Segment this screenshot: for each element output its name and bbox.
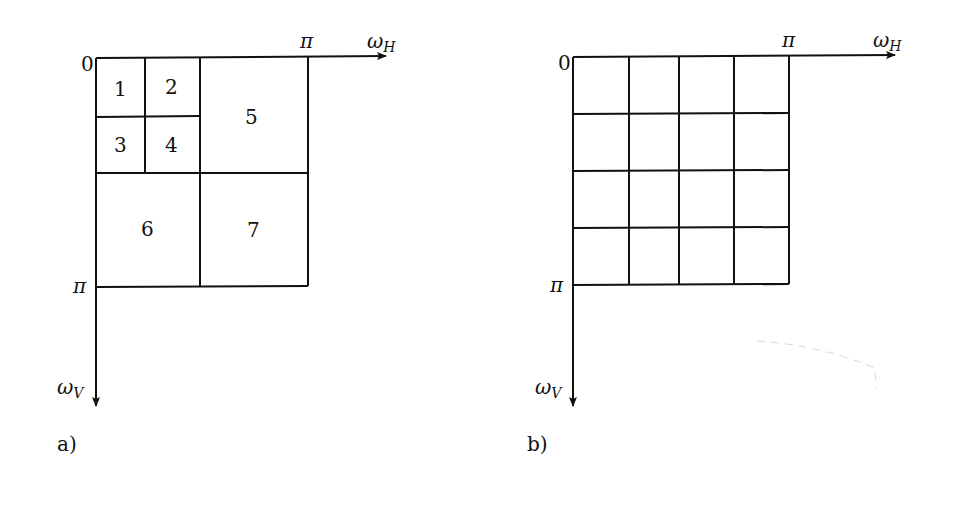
region-1: 1 (114, 77, 127, 101)
h-tick-pi-a: π (299, 29, 314, 53)
region-7: 7 (247, 218, 260, 242)
panel-a-labels: 0 π π ωH ωV 1 2 3 4 5 6 7 a) (57, 29, 396, 456)
h-axis-arrow (96, 56, 386, 58)
grid-horizontal-pi (573, 284, 789, 285)
h-tick-pi-b: π (781, 28, 796, 52)
caption-a: a) (57, 432, 77, 456)
origin-label-a: 0 (81, 52, 94, 76)
panel-b-labels: 0 π π ωH ωV b) (527, 28, 902, 456)
region-3: 3 (114, 133, 127, 157)
subband-decomposition-figure: 0 π π ωH ωV 1 2 3 4 5 6 7 a) 0 π π ωH ωV… (0, 0, 961, 511)
v-tick-pi-b: π (549, 273, 564, 297)
scan-artifact (757, 341, 876, 388)
grid-horizontal-2 (573, 170, 789, 171)
region-2: 2 (165, 75, 178, 99)
v-axis-label-b: ωV (535, 375, 563, 401)
h-axis-arrow (573, 55, 895, 57)
panel-a (96, 56, 386, 406)
origin-label-b: 0 (558, 51, 571, 75)
split-horizontal-quarter (96, 116, 200, 117)
panel-b (573, 55, 895, 406)
v-axis-label-a: ωV (57, 375, 85, 401)
region-5: 5 (245, 105, 258, 129)
grid-horizontal-3 (573, 227, 789, 228)
h-axis-label-b: ωH (873, 28, 902, 54)
grid-horizontal-1 (573, 113, 789, 114)
pi-boundary-horizontal (96, 286, 308, 287)
region-4: 4 (165, 133, 178, 157)
h-axis-label-a: ωH (367, 29, 396, 55)
v-tick-pi-a: π (72, 274, 87, 298)
caption-b: b) (527, 432, 548, 456)
region-6: 6 (141, 217, 154, 241)
